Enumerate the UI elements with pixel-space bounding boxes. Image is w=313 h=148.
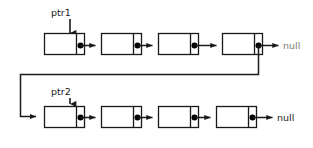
top-node-2 — [102, 34, 153, 55]
top-list-row: ptr1 — [45, 7, 301, 55]
top-node-1 — [45, 34, 96, 55]
bottom-node-1 — [45, 107, 96, 128]
bottom-null-label: null — [277, 112, 294, 123]
top-node-4 — [223, 34, 279, 55]
ptr1-label: ptr1 — [51, 7, 71, 18]
cross-list-connector-path — [21, 46, 259, 117]
top-node-3 — [159, 34, 217, 55]
bottom-node-2 — [102, 107, 153, 128]
bottom-node-4 — [217, 107, 273, 128]
bottom-node-3 — [159, 107, 211, 128]
linked-list-diagram: ptr1 — [0, 0, 313, 148]
cross-list-connector — [21, 46, 259, 117]
diagram-canvas: ptr1 — [0, 0, 313, 148]
ptr2-label: ptr2 — [51, 86, 71, 97]
bottom-list-row: ptr2 — [45, 86, 295, 128]
top-null-label: null — [283, 40, 300, 51]
